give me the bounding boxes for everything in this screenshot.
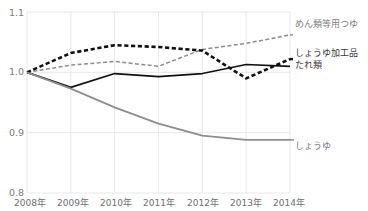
y-axis-labels: 1.1 1.0 0.9 0.8 bbox=[0, 0, 26, 211]
x-tick-2012: 2012年 bbox=[187, 196, 219, 209]
gridlines bbox=[27, 12, 290, 193]
y-tick-0-9: 0.9 bbox=[9, 127, 24, 138]
series-label-tare-rui: たれ類 bbox=[295, 60, 322, 71]
series-lines bbox=[27, 35, 294, 140]
x-axis-labels: 2008年 2009年 2010年 2011年 2012年 2013年 2014… bbox=[0, 196, 368, 210]
x-tick-2009: 2009年 bbox=[57, 196, 89, 209]
line-chart: 1.1 1.0 0.9 0.8 2008年 2009年 2010年 2011年 … bbox=[0, 0, 368, 211]
x-tick-2008: 2008年 bbox=[14, 196, 46, 209]
x-tick-2010: 2010年 bbox=[100, 196, 132, 209]
series-label-men-tsuyu: めん類等用つゆ bbox=[295, 19, 358, 30]
y-tick-1-1: 1.1 bbox=[9, 7, 24, 18]
series-label-shoyu: しょうゆ bbox=[295, 141, 331, 152]
x-tick-2011: 2011年 bbox=[143, 196, 175, 209]
y-tick-1-0: 1.0 bbox=[9, 66, 24, 77]
chart-plot-area bbox=[0, 0, 368, 211]
series-label-shoyu-kakohin: しょうゆ加工品 bbox=[295, 48, 358, 59]
x-tick-2014: 2014年 bbox=[273, 196, 305, 209]
x-tick-2013: 2013年 bbox=[230, 196, 262, 209]
